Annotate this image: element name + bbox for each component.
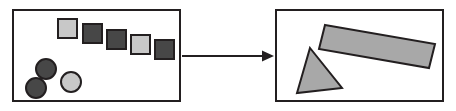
square-3[interactable] — [107, 30, 126, 49]
diagram-canvas — [0, 0, 456, 111]
circle-3[interactable] — [61, 72, 81, 92]
transform-arrow[interactable] — [182, 51, 274, 62]
square-4[interactable] — [131, 35, 150, 54]
shape-transformation-diagram — [0, 0, 456, 111]
circle-2[interactable] — [26, 78, 46, 98]
arrow-head-icon — [262, 51, 274, 62]
circle-1[interactable] — [36, 59, 56, 79]
square-5[interactable] — [155, 40, 174, 59]
square-2[interactable] — [83, 24, 102, 43]
square-1[interactable] — [58, 19, 77, 38]
